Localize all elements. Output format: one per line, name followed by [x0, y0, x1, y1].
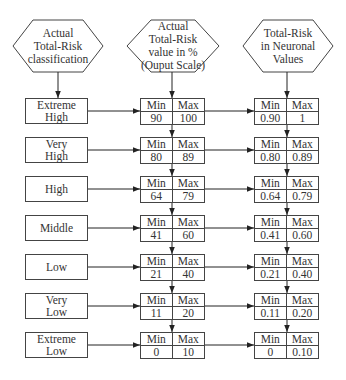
header-line: Total-Risk [243, 27, 333, 40]
min-value: 0.80 [255, 151, 287, 163]
max-label: Max [287, 255, 319, 268]
percent-range-box: MinMax6479 [140, 176, 205, 203]
header-line: Values [243, 53, 333, 66]
classification-box: Middle [25, 215, 88, 241]
classification-label: Middle [40, 222, 73, 235]
max-label: Max [173, 177, 205, 190]
min-value: 0.90 [255, 112, 287, 124]
min-value: 21 [141, 268, 173, 280]
max-value: 0.20 [287, 307, 319, 319]
max-label: Max [287, 216, 319, 229]
max-value: 100 [173, 112, 205, 124]
classification-label: ExtremeLow [37, 333, 76, 358]
min-label: Min [141, 255, 173, 268]
max-value: 0.10 [287, 346, 319, 358]
classification-line: Extreme [37, 333, 76, 346]
min-label: Min [255, 99, 287, 112]
classification-label: VeryHigh [45, 138, 68, 163]
max-label: Max [287, 99, 319, 112]
max-value: 20 [173, 307, 205, 319]
max-label: Max [173, 255, 205, 268]
percent-range-box: MinMax4160 [140, 215, 205, 242]
percent-range-box: MinMax90100 [140, 98, 205, 125]
header-line: classification [13, 53, 103, 66]
neuronal-range-box: MinMax0.901 [254, 98, 319, 125]
classification-line: Low [37, 345, 76, 358]
classification-line: Low [46, 261, 67, 274]
classification-line: High [45, 150, 68, 163]
min-value: 0 [255, 346, 287, 358]
max-value: 0.79 [287, 190, 319, 202]
percent-range-box: MinMax2140 [140, 254, 205, 281]
header-neuronal: Total-Risk in Neuronal Values [243, 27, 333, 66]
classification-box: VeryHigh [25, 137, 88, 163]
max-value: 79 [173, 190, 205, 202]
neuronal-range-box: MinMax00.10 [254, 332, 319, 359]
neuronal-range-box: MinMax0.640.79 [254, 176, 319, 203]
classification-label: ExtremeHigh [37, 99, 76, 124]
min-label: Min [255, 138, 287, 151]
max-value: 1 [287, 112, 319, 124]
max-label: Max [287, 333, 319, 346]
min-label: Min [141, 99, 173, 112]
min-label: Min [255, 216, 287, 229]
header-classification: Actual Total-Risk classification [13, 27, 103, 66]
classification-line: Very [46, 294, 68, 307]
neuronal-range-box: MinMax0.210.40 [254, 254, 319, 281]
min-label: Min [141, 177, 173, 190]
max-value: 10 [173, 346, 205, 358]
min-value: 64 [141, 190, 173, 202]
classification-box: Low [25, 254, 88, 280]
header-line: value in % [127, 46, 219, 59]
max-value: 40 [173, 268, 205, 280]
classification-line: High [45, 183, 68, 196]
header-line: Total-Risk [127, 33, 219, 46]
header-line: Total-Risk [13, 40, 103, 53]
min-value: 0.11 [255, 307, 287, 319]
max-value: 0.89 [287, 151, 319, 163]
classification-line: Very [45, 138, 68, 151]
max-label: Max [173, 294, 205, 307]
header-line: Actual [127, 20, 219, 33]
classification-box: High [25, 176, 88, 202]
classification-line: High [37, 111, 76, 124]
classification-line: Extreme [37, 99, 76, 112]
max-value: 89 [173, 151, 205, 163]
max-label: Max [173, 333, 205, 346]
min-label: Min [255, 333, 287, 346]
header-line: in Neuronal [243, 40, 333, 53]
classification-line: Middle [40, 222, 73, 235]
min-value: 0 [141, 346, 173, 358]
header-line: (Ouput Scale) [127, 59, 219, 72]
neuronal-range-box: MinMax0.800.89 [254, 137, 319, 164]
neuronal-range-box: MinMax0.410.60 [254, 215, 319, 242]
neuronal-range-box: MinMax0.110.20 [254, 293, 319, 320]
classification-line: Low [46, 306, 68, 319]
max-value: 0.60 [287, 229, 319, 241]
percent-range-box: MinMax010 [140, 332, 205, 359]
min-label: Min [255, 294, 287, 307]
classification-box: VeryLow [25, 293, 88, 319]
min-value: 0.41 [255, 229, 287, 241]
min-value: 41 [141, 229, 173, 241]
percent-range-box: MinMax8089 [140, 137, 205, 164]
max-value: 60 [173, 229, 205, 241]
classification-label: VeryLow [46, 294, 68, 319]
min-value: 11 [141, 307, 173, 319]
max-label: Max [173, 138, 205, 151]
classification-label: High [45, 183, 68, 196]
max-value: 0.40 [287, 268, 319, 280]
min-label: Min [255, 255, 287, 268]
classification-box: ExtremeLow [25, 332, 88, 358]
min-value: 90 [141, 112, 173, 124]
min-label: Min [141, 216, 173, 229]
min-label: Min [141, 138, 173, 151]
percent-range-box: MinMax1120 [140, 293, 205, 320]
max-label: Max [173, 216, 205, 229]
max-label: Max [287, 294, 319, 307]
header-output-scale: Actual Total-Risk value in % (Ouput Scal… [127, 20, 219, 72]
header-line: Actual [13, 27, 103, 40]
max-label: Max [287, 177, 319, 190]
min-label: Min [255, 177, 287, 190]
min-value: 0.64 [255, 190, 287, 202]
